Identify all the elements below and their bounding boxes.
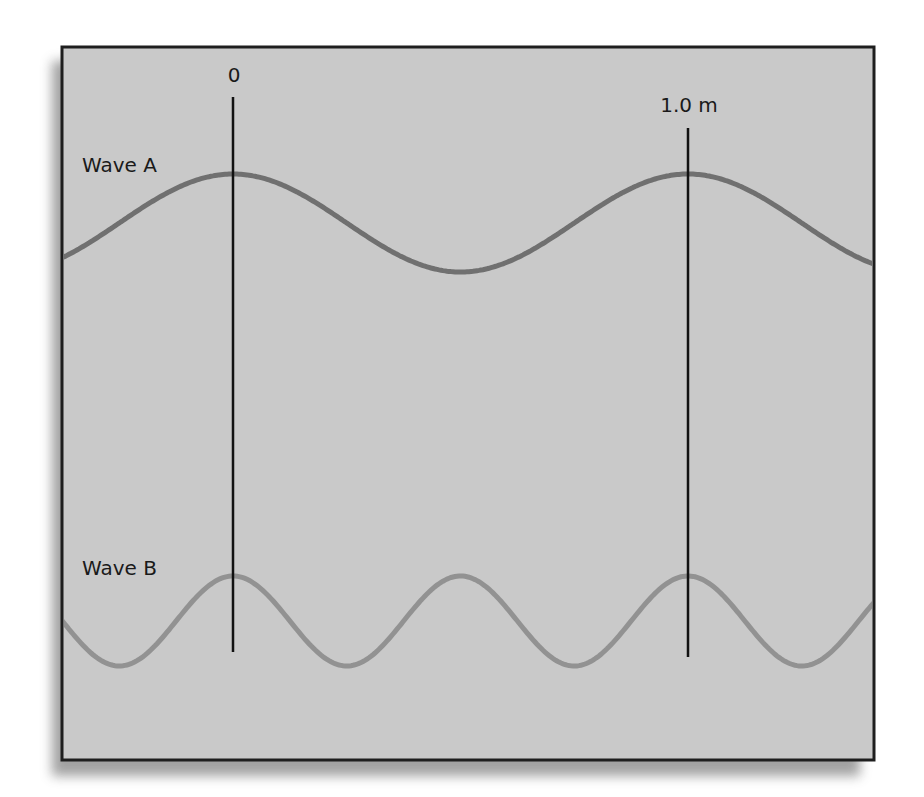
diagram-frame — [62, 47, 874, 760]
wave-b-label: Wave B — [82, 556, 157, 580]
one-meter-marker-label: 1.0 m — [660, 93, 718, 117]
zero-marker-label: 0 — [228, 63, 241, 87]
wave-diagram: 0 1.0 m Wave A Wave B — [0, 0, 924, 797]
wave-a-label: Wave A — [82, 153, 157, 177]
